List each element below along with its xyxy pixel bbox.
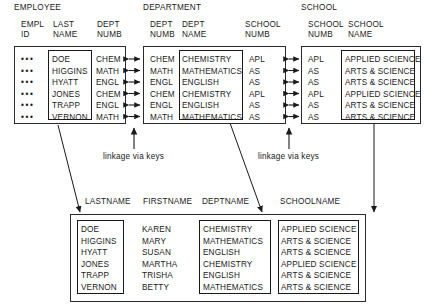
result-cell-schoolname: APPLIED SCIENCE	[281, 224, 357, 236]
result-column-schoolname: APPLIED SCIENCEARTS & SCIENCEARTS & SCIE…	[281, 224, 357, 294]
department-col-head-dept-name-line2: NAME	[182, 30, 206, 40]
department-cell-dept-numb: MATH	[150, 66, 175, 78]
employee-cell-last-name: JONES	[52, 89, 88, 101]
department-column-dept-numb: CHEMMATHENGLCHEMENGLMATH	[150, 54, 175, 124]
school-col-head-school-numb-line1: SCHOOL	[308, 20, 344, 30]
employee-cell-empl-id: •••	[21, 54, 34, 66]
employee-column-empl-id: ••••••••••••••••••	[21, 54, 34, 124]
employee-cell-dept-numb: CHEM	[96, 89, 121, 101]
department-col-head-school-numb: SCHOOL NUMB	[245, 20, 281, 40]
employee-table-title: EMPLOYEE	[14, 3, 61, 12]
result-cell-firstname: MARTHA	[142, 259, 177, 271]
school-cell-school-name: ARTS & SCIENCE	[345, 77, 421, 89]
result-cell-lastname: HYATT	[81, 247, 117, 259]
result-cell-lastname: TRAPP	[81, 270, 117, 282]
employee-cell-empl-id: •••	[21, 77, 34, 89]
school-cell-school-numb: AS	[308, 112, 324, 124]
employee-column-dept-numb: CHEMMATHENGLCHEMENGLMATH	[96, 54, 121, 124]
school-col-head-school-numb: SCHOOL NUMB	[308, 20, 344, 40]
linkage-label-right: linkage via keys	[258, 152, 319, 161]
department-cell-school-numb: AS	[249, 112, 265, 124]
department-table-title: DEPARTMENT	[143, 3, 201, 12]
result-cell-firstname: MARY	[142, 236, 177, 248]
result-cell-lastname: DOE	[81, 224, 117, 236]
department-cell-dept-name: ENGLISH	[182, 100, 242, 112]
employee-cell-empl-id: •••	[21, 112, 34, 124]
employee-cell-dept-numb: MATH	[96, 112, 121, 124]
school-col-head-school-name-line1: SCHOOL	[348, 20, 384, 30]
result-cell-firstname: SUSAN	[142, 247, 177, 259]
school-col-head-school-name: SCHOOL NAME	[348, 20, 384, 40]
result-col-head-deptname: DEPTNAME	[202, 197, 249, 207]
result-cell-firstname: BETTY	[142, 282, 177, 294]
result-column-firstname: KARENMARYSUSANMARTHATRISHABETTY	[142, 224, 177, 294]
department-column-school-numb: APLASASAPLASAS	[249, 54, 265, 124]
result-cell-lastname: JONES	[81, 259, 117, 271]
school-cell-school-numb: APL	[308, 89, 324, 101]
result-cell-schoolname: ARTS & SCIENCE	[281, 236, 357, 248]
employee-col-head-dept-numb-line2: NUMB	[97, 30, 122, 40]
employee-cell-empl-id: •••	[21, 100, 34, 112]
result-cell-deptname: MATHEMATICS	[203, 236, 263, 248]
employee-col-head-empl-id-line1: EMPL	[21, 20, 44, 30]
result-cell-lastname: VERNON	[81, 282, 117, 294]
department-cell-dept-name: MATHEMATICS	[182, 112, 242, 124]
school-table-title: SCHOOL	[301, 3, 337, 12]
school-cell-school-name: ARTS & SCIENCE	[345, 66, 421, 78]
employee-cell-dept-numb: ENGL	[96, 100, 121, 112]
department-col-head-dept-name: DEPT NAME	[182, 20, 206, 40]
employee-cell-last-name: VERNON	[52, 112, 88, 124]
department-cell-dept-numb: CHEM	[150, 54, 175, 66]
employee-cell-last-name: HIGGINS	[52, 66, 88, 78]
department-cell-dept-name: CHEMISTRY	[182, 89, 242, 101]
employee-cell-empl-id: •••	[21, 66, 34, 78]
result-cell-schoolname: ARTS & SCIENCE	[281, 270, 357, 282]
result-cell-firstname: KAREN	[142, 224, 177, 236]
employee-column-last-name: DOEHIGGINSHYATTJONESTRAPPVERNON	[52, 54, 88, 124]
result-cell-deptname: ENGLISH	[203, 270, 263, 282]
school-column-school-name: APPLIED SCIENCEARTS & SCIENCEARTS & SCIE…	[345, 54, 421, 124]
result-cell-deptname: CHEMISTRY	[203, 224, 263, 236]
department-col-head-dept-numb-line1: DEPT	[150, 20, 175, 30]
employee-department-key-arrows	[129, 59, 140, 117]
department-cell-dept-numb: ENGL	[150, 77, 175, 89]
result-cell-schoolname: ARTS & SCIENCE	[281, 282, 357, 294]
school-cell-school-numb: APL	[308, 54, 324, 66]
employee-cell-last-name: HYATT	[52, 77, 88, 89]
employee-col-head-last-name-line1: LAST	[53, 20, 77, 30]
employee-col-head-last-name-line2: NAME	[53, 30, 77, 40]
result-col-head-lastname: LASTNAME	[85, 197, 131, 207]
result-col-head-schoolname: SCHOOLNAME	[280, 197, 340, 207]
department-col-head-dept-numb: DEPT NUMB	[150, 20, 175, 40]
result-cell-deptname: CHEMISTRY	[203, 259, 263, 271]
school-column-school-numb: APLASASAPLASAS	[308, 54, 324, 124]
department-cell-school-numb: APL	[249, 54, 265, 66]
result-cell-schoolname: ARTS & SCIENCE	[281, 247, 357, 259]
school-cell-school-name: ARTS & SCIENCE	[345, 112, 421, 124]
school-cell-school-numb: AS	[308, 100, 324, 112]
school-col-head-school-name-line2: NAME	[348, 30, 384, 40]
result-cell-schoolname: APPLIED SCIENCE	[281, 259, 357, 271]
department-column-dept-name: CHEMISTRYMATHEMATICSENGLISHCHEMISTRYENGL…	[182, 54, 242, 124]
department-cell-dept-numb: ENGL	[150, 100, 175, 112]
department-cell-school-numb: AS	[249, 100, 265, 112]
department-cell-school-numb: AS	[249, 66, 265, 78]
school-cell-school-name: APPLIED SCIENCE	[345, 89, 421, 101]
employee-col-head-empl-id: EMPL ID	[21, 20, 44, 40]
department-cell-dept-name: MATHEMATICS	[182, 66, 242, 78]
employee-cell-dept-numb: ENGL	[96, 77, 121, 89]
department-cell-school-numb: APL	[249, 89, 265, 101]
employee-cell-last-name: TRAPP	[52, 100, 88, 112]
linkage-label-left: linkage via keys	[103, 152, 164, 161]
department-cell-dept-name: ENGLISH	[182, 77, 242, 89]
employee-cell-dept-numb: MATH	[96, 66, 121, 78]
employee-cell-empl-id: •••	[21, 89, 34, 101]
school-cell-school-name: ARTS & SCIENCE	[345, 100, 421, 112]
employee-col-head-dept-numb-line1: DEPT	[97, 20, 122, 30]
department-cell-dept-name: CHEMISTRY	[182, 54, 242, 66]
result-cell-lastname: HIGGINS	[81, 236, 117, 248]
employee-cell-dept-numb: CHEM	[96, 54, 121, 66]
school-cell-school-name: APPLIED SCIENCE	[345, 54, 421, 66]
result-cell-firstname: TRISHA	[142, 270, 177, 282]
school-cell-school-numb: AS	[308, 66, 324, 78]
